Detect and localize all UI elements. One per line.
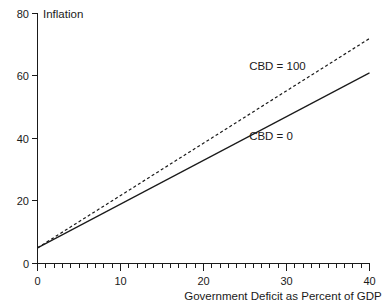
x-tick-label-10: 10	[114, 275, 126, 287]
x-axis-title: Government Deficit as Percent of GDP	[184, 290, 382, 302]
y-tick-label-80: 80	[17, 8, 29, 20]
axes-group	[37, 13, 370, 264]
y-tick-label-0: 0	[23, 258, 29, 270]
y-tick-label-20: 20	[17, 195, 29, 207]
chart-canvas: 80 60 40 20 0 0 10 20 30 40	[0, 0, 383, 305]
series-annotation-cbd-0: CBD = 0	[249, 130, 293, 142]
series-group	[38, 39, 370, 248]
series-annotation-cbd-100: CBD = 100	[249, 60, 306, 72]
x-tick-label-20: 20	[197, 275, 209, 287]
inflation-deficit-chart: 80 60 40 20 0 0 10 20 30 40	[0, 0, 383, 305]
x-tick-label-30: 30	[280, 275, 292, 287]
x-tick-label-0: 0	[34, 275, 40, 287]
series-line-cbd-100	[38, 39, 370, 248]
x-axis-tick-labels: 0 10 20 30 40	[34, 275, 375, 287]
y-axis-tick-labels: 80 60 40 20 0	[17, 8, 29, 270]
y-tick-label-60: 60	[17, 70, 29, 82]
y-axis-ticks	[32, 14, 38, 264]
x-tick-label-40: 40	[363, 275, 375, 287]
y-tick-label-40: 40	[17, 133, 29, 145]
series-line-cbd-0	[38, 73, 370, 248]
y-axis-title: Inflation	[43, 8, 83, 20]
